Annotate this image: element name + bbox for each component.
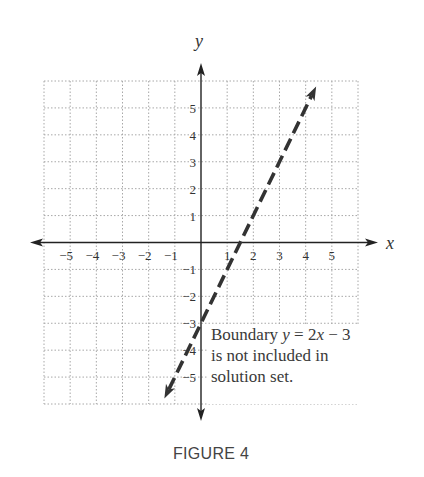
y-tick-label: −5 [182, 370, 196, 385]
x-tick-label: −2 [138, 248, 152, 263]
x-tick-label: −3 [112, 248, 126, 263]
annotation-line-2: is not included in [211, 346, 329, 365]
x-tick-label: −4 [85, 248, 99, 263]
coordinate-plane-chart: −5−4−3−2−112345−5−4−3−2−112345 x y Bound… [0, 0, 424, 477]
y-tick-label: 3 [190, 155, 197, 170]
y-tick-label: 4 [190, 128, 197, 143]
x-tick-label: 1 [224, 248, 231, 263]
x-tick-label: 4 [302, 248, 309, 263]
x-tick-label: 3 [276, 248, 283, 263]
annotation-line-1: Boundary y = 2x − 3 [211, 325, 351, 344]
x-axis-label: x [385, 233, 394, 253]
y-tick-label: 2 [190, 182, 197, 197]
x-tick-label: 5 [329, 248, 336, 263]
annotation-line-3: solution set. [211, 367, 293, 386]
x-tick-label: −5 [59, 248, 73, 263]
x-tick-label: 2 [250, 248, 257, 263]
y-axis-label: y [193, 31, 203, 51]
y-tick-label: 5 [190, 101, 197, 116]
y-tick-label: −2 [182, 289, 196, 304]
x-tick-label: −1 [164, 248, 178, 263]
figure-caption: FIGURE 4 [173, 445, 249, 462]
y-tick-label: 1 [190, 209, 197, 224]
y-tick-label: −1 [182, 262, 196, 277]
y-tick-label: −3 [182, 316, 196, 331]
